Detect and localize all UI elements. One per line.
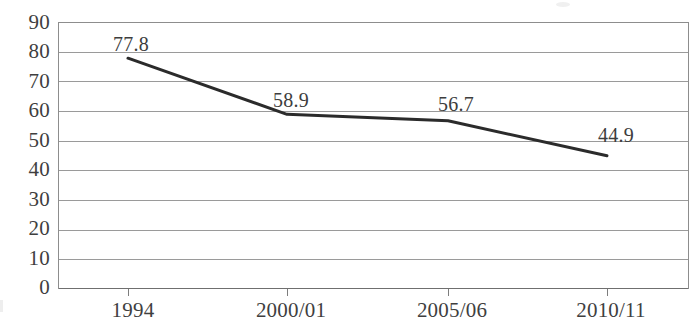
data-label-2005-06: 56.7 — [438, 94, 474, 114]
gridline-60 — [59, 111, 688, 112]
y-tick-label: 10 — [0, 248, 50, 269]
data-label-1994: 77.8 — [113, 34, 149, 54]
y-tick-label: 50 — [0, 130, 50, 151]
y-tick-label: 40 — [0, 159, 50, 180]
gridline-40 — [59, 170, 688, 171]
x-tick-2000-01 — [287, 289, 288, 296]
y-tick-label: 60 — [0, 100, 50, 121]
y-tick-label: 20 — [0, 218, 50, 239]
gridline-80 — [59, 52, 688, 53]
gridline-90 — [59, 22, 688, 23]
gridline-10 — [59, 259, 688, 260]
x-tick-2005-06 — [448, 289, 449, 296]
data-label-2000-01: 58.9 — [273, 90, 309, 110]
x-axis-label-2005-06: 2005/06 — [417, 298, 487, 322]
y-tick-label: 80 — [0, 41, 50, 62]
scan-artifact — [556, 2, 570, 7]
line-chart: 90 80 70 60 50 40 30 20 10 0 1994 2000/0… — [0, 0, 698, 330]
y-tick-label: 70 — [0, 71, 50, 92]
gridline-30 — [59, 200, 688, 201]
gridline-20 — [59, 230, 688, 231]
x-axis-label-2000-01: 2000/01 — [256, 298, 326, 322]
plot-area — [58, 22, 689, 289]
gridline-50 — [59, 141, 688, 142]
gridline-70 — [59, 81, 688, 82]
y-axis-tick-labels: 90 80 70 60 50 40 30 20 10 0 — [0, 0, 50, 330]
x-tick-2010-11 — [607, 289, 608, 296]
x-tick-1994 — [128, 289, 129, 296]
data-label-2010-11: 44.9 — [598, 125, 634, 145]
y-tick-label: 90 — [0, 12, 50, 33]
y-tick-label: 0 — [0, 277, 50, 298]
gridline-0 — [59, 288, 688, 289]
y-tick-label: 30 — [0, 189, 50, 210]
x-axis-label-2010-11: 2010/11 — [576, 298, 645, 322]
x-axis-label-1994: 1994 — [112, 298, 155, 322]
